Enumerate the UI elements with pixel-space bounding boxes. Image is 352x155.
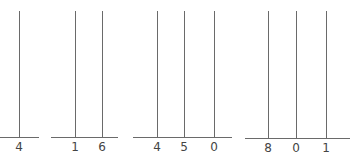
- place-value-digit: 8: [260, 142, 276, 154]
- place-value-digit: 1: [67, 141, 83, 153]
- abacus-rod: [75, 11, 76, 137]
- abacus-rod: [214, 11, 215, 137]
- abacus-rod: [268, 11, 269, 138]
- place-value-digit: 5: [176, 141, 192, 153]
- place-value-digit: 0: [206, 141, 222, 153]
- abacus-rod: [102, 11, 103, 137]
- abacus-baseline: [245, 138, 350, 139]
- abacus-rod: [296, 11, 297, 138]
- place-value-digit: 1: [318, 142, 334, 154]
- place-value-digit: 6: [94, 141, 110, 153]
- abacus-rod: [19, 11, 20, 137]
- place-value-digit: 4: [11, 141, 27, 153]
- abacus-baseline: [133, 137, 232, 138]
- abacus-rod: [184, 11, 185, 137]
- abacus-rod: [326, 11, 327, 138]
- abacus-baseline: [0, 137, 39, 138]
- place-value-digit: 0: [288, 142, 304, 154]
- place-value-digit: 4: [149, 141, 165, 153]
- abacus-rod: [157, 11, 158, 137]
- abacus-baseline: [51, 137, 118, 138]
